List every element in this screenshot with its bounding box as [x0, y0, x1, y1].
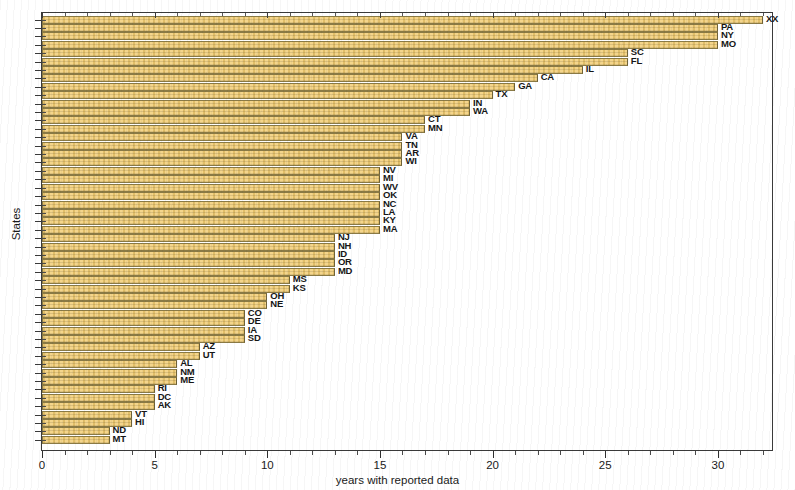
y-tick — [35, 196, 41, 197]
x-tick-top — [42, 13, 43, 18]
x-tick-top — [763, 13, 764, 16]
x-tick-minor — [110, 451, 111, 455]
y-tick — [35, 356, 41, 357]
y-tick — [35, 263, 41, 264]
x-tick-top — [87, 13, 88, 16]
x-tick-top — [110, 13, 111, 16]
y-tick — [35, 70, 41, 71]
x-tick-minor — [177, 451, 178, 455]
y-tick-inner — [42, 389, 46, 390]
y-tick-inner — [42, 280, 46, 281]
x-tick-top — [583, 13, 584, 16]
y-tick-inner — [42, 440, 46, 441]
y-tick — [35, 53, 41, 54]
x-tick-minor — [290, 451, 291, 455]
y-tick-inner — [42, 230, 46, 231]
y-tick-inner — [42, 373, 46, 374]
y-tick-inner — [42, 162, 46, 163]
x-axis: 051015202530 — [0, 0, 795, 490]
x-tick-top — [425, 13, 426, 16]
y-tick-inner — [42, 221, 46, 222]
y-tick — [35, 339, 41, 340]
y-tick — [35, 406, 41, 407]
y-tick — [35, 221, 41, 222]
x-tick-label: 30 — [712, 459, 725, 471]
y-tick — [35, 347, 41, 348]
x-tick-top — [493, 13, 494, 18]
x-tick-top — [380, 13, 381, 18]
y-tick — [35, 272, 41, 273]
x-tick-minor — [402, 451, 403, 455]
y-tick-inner — [42, 406, 46, 407]
x-tick-major — [267, 451, 268, 458]
y-tick-inner — [42, 62, 46, 63]
y-tick — [35, 297, 41, 298]
x-tick-major — [155, 451, 156, 458]
y-tick — [35, 45, 41, 46]
y-tick-inner — [42, 247, 46, 248]
x-tick-label: 20 — [486, 459, 499, 471]
x-tick-top — [245, 13, 246, 16]
y-tick-inner — [42, 305, 46, 306]
y-tick — [35, 137, 41, 138]
y-tick — [35, 322, 41, 323]
x-tick-top — [470, 13, 471, 16]
y-tick-inner — [42, 87, 46, 88]
y-tick — [35, 381, 41, 382]
y-tick-inner — [42, 154, 46, 155]
x-tick-major — [605, 451, 606, 458]
x-tick-minor — [695, 451, 696, 455]
x-tick-major — [380, 451, 381, 458]
x-axis-title: years with reported data — [0, 474, 795, 486]
y-tick — [35, 423, 41, 424]
x-tick-top — [538, 13, 539, 16]
x-tick-minor — [515, 451, 516, 455]
x-tick-major — [42, 451, 43, 458]
y-tick — [35, 20, 41, 21]
y-tick — [35, 289, 41, 290]
y-tick — [35, 87, 41, 88]
y-tick-inner — [42, 297, 46, 298]
x-tick-minor — [245, 451, 246, 455]
x-tick-minor — [425, 451, 426, 455]
y-tick-inner — [42, 356, 46, 357]
x-tick-top — [132, 13, 133, 16]
y-tick — [35, 255, 41, 256]
y-tick-inner — [42, 70, 46, 71]
x-tick-minor — [650, 451, 651, 455]
x-tick-minor — [357, 451, 358, 455]
x-tick-label: 10 — [261, 459, 274, 471]
y-tick-inner — [42, 431, 46, 432]
x-tick-top — [673, 13, 674, 16]
y-tick-inner — [42, 415, 46, 416]
y-tick — [35, 78, 41, 79]
x-tick-top — [357, 13, 358, 16]
x-tick-major — [493, 451, 494, 458]
y-tick-inner — [42, 95, 46, 96]
y-tick-inner — [42, 53, 46, 54]
y-tick — [35, 36, 41, 37]
y-tick-inner — [42, 272, 46, 273]
y-tick-inner — [42, 129, 46, 130]
x-tick-minor — [335, 451, 336, 455]
y-tick — [35, 364, 41, 365]
y-tick-inner — [42, 255, 46, 256]
y-tick-inner — [42, 36, 46, 37]
x-tick-minor — [87, 451, 88, 455]
x-tick-top — [335, 13, 336, 16]
y-tick-inner — [42, 137, 46, 138]
y-tick-inner — [42, 289, 46, 290]
y-tick-inner — [42, 28, 46, 29]
y-tick — [35, 389, 41, 390]
x-tick-top — [65, 13, 66, 16]
x-tick-minor — [538, 451, 539, 455]
x-tick-top — [222, 13, 223, 16]
x-tick-top — [650, 13, 651, 16]
y-tick-inner — [42, 78, 46, 79]
y-tick — [35, 179, 41, 180]
y-tick — [35, 62, 41, 63]
y-tick — [35, 247, 41, 248]
x-tick-minor — [65, 451, 66, 455]
y-tick — [35, 238, 41, 239]
y-tick — [35, 205, 41, 206]
